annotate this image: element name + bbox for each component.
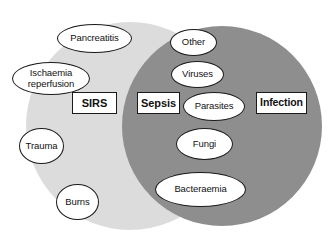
node-label: Ischaemia reperfusion bbox=[28, 68, 74, 89]
node-fungi: Fungi bbox=[176, 128, 233, 160]
node-ischaemia-reperfusion: Ischaemia reperfusion bbox=[12, 62, 90, 95]
node-viruses: Viruses bbox=[171, 61, 224, 88]
node-label: Fungi bbox=[193, 139, 216, 150]
node-parasites: Parasites bbox=[183, 92, 245, 121]
label-box-text: Infection bbox=[260, 97, 303, 109]
label-box-text: SIRS bbox=[82, 97, 107, 109]
node-trauma: Trauma bbox=[19, 128, 64, 164]
node-label: Parasites bbox=[195, 101, 234, 112]
node-label: Bacteraemia bbox=[174, 184, 226, 195]
venn-diagram: Pancreatitis Ischaemia reperfusion Traum… bbox=[0, 0, 334, 236]
node-label: Burns bbox=[65, 197, 89, 208]
label-box-sepsis: Sepsis bbox=[137, 92, 180, 114]
node-label: Viruses bbox=[182, 69, 213, 80]
label-box-sirs: SIRS bbox=[72, 92, 117, 114]
node-pancreatitis: Pancreatitis bbox=[57, 24, 132, 53]
node-label: Trauma bbox=[26, 141, 58, 152]
label-box-text: Sepsis bbox=[141, 97, 176, 109]
node-burns: Burns bbox=[56, 184, 99, 220]
node-label: Other bbox=[182, 37, 205, 48]
node-bacteraemia: Bacteraemia bbox=[155, 172, 246, 207]
label-box-infection: Infection bbox=[256, 92, 307, 114]
node-other: Other bbox=[170, 29, 217, 56]
node-label: Pancreatitis bbox=[70, 33, 118, 44]
